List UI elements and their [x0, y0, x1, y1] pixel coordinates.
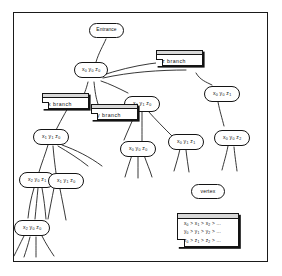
node-label: x0 y0 z2: [223, 135, 241, 141]
node-entrance[interactable]: Entrance: [89, 23, 124, 38]
note-label: y branch: [97, 112, 121, 118]
node-label: x1 y1 z0: [57, 178, 75, 184]
node-label: x0 y1 z1: [177, 139, 195, 145]
legend-fold-corner: [177, 239, 185, 247]
node-label: x0 y0 z0: [82, 67, 100, 73]
legend-row-z: z0 > z1 > z2 > ...: [184, 239, 234, 244]
note-label: x branch: [48, 101, 72, 107]
node-middle-child-right[interactable]: x0 y1 z1: [168, 134, 204, 150]
node-z-branch-grandchild[interactable]: x0 y0 z2: [214, 130, 250, 146]
node-vertex-legend[interactable]: vertex: [191, 184, 225, 199]
note-label: z branch: [162, 58, 186, 64]
note-fold-corner: [91, 113, 98, 120]
legend-note[interactable]: x0 > x1 > x2 > ... y0 > y1 > y2 > ... z0…: [177, 213, 239, 247]
node-x-branch-child[interactable]: x1 y1 z0: [33, 129, 69, 145]
note-body: z branch: [157, 55, 202, 66]
node-label: x2 y0 z0: [23, 225, 41, 231]
note-body: x branch: [43, 98, 88, 109]
note-fold-corner: [156, 59, 163, 66]
diagram-canvas: Entrance x0 y0 z0 x1 y1 z0 x2 y0 z1 x1 y…: [0, 0, 282, 276]
node-x-branch-sibling[interactable]: x1 y1 z0: [48, 173, 84, 189]
node-label: x1 y1 z0: [42, 134, 60, 140]
note-y-branch[interactable]: y branch: [91, 104, 138, 120]
node-middle-child[interactable]: x0 y0 z0: [120, 141, 156, 157]
legend-rows: x0 > x1 > x2 > ... y0 > y1 > y2 > ... z0…: [178, 219, 238, 247]
note-x-branch[interactable]: x branch: [42, 93, 89, 109]
node-label: x0 y0 z0: [129, 146, 147, 152]
note-fold-corner: [42, 102, 49, 109]
note-body: y branch: [92, 109, 137, 120]
node-x-branch-leaf[interactable]: x2 y0 z0: [14, 220, 50, 236]
node-label: vertex: [201, 189, 216, 194]
node-label: Entrance: [96, 28, 116, 33]
legend-row-y: y0 > y1 > y2 > ...: [184, 230, 234, 235]
node-label: x0 y0 z1: [213, 91, 231, 97]
node-root[interactable]: x0 y0 z0: [74, 62, 108, 78]
node-label: x2 y0 z1: [28, 177, 46, 183]
note-z-branch[interactable]: z branch: [156, 50, 203, 66]
legend-row-x: x0 > x1 > x2 > ...: [184, 222, 234, 227]
node-z-branch-child[interactable]: x0 y0 z1: [204, 86, 240, 102]
